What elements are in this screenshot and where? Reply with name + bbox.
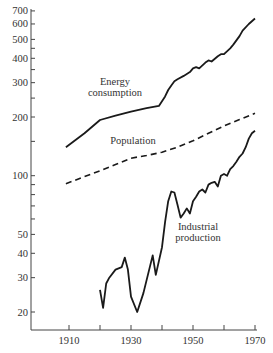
y-tick-label: 400 (12, 53, 28, 64)
series-group (66, 19, 255, 313)
energy-consumption-label: Energy (100, 76, 131, 87)
x-tick-label: 1970 (245, 335, 266, 346)
y-tick-label: 700 (12, 5, 28, 16)
energy-consumption-line (66, 19, 255, 148)
series-labels: EnergyconsumptionPopulationIndustrialpro… (88, 76, 222, 243)
x-tick-label: 1930 (121, 335, 142, 346)
y-tick-label: 200 (12, 112, 28, 123)
x-tick-label: 1910 (59, 335, 80, 346)
y-tick-label: 100 (12, 170, 28, 181)
population-label: Population (110, 135, 156, 146)
y-tick-label: 300 (12, 77, 28, 88)
energy-consumption-label: consumption (88, 87, 143, 98)
industrial-production-label: production (175, 232, 221, 243)
y-tick-label: 500 (12, 34, 28, 45)
industrial-production-label: Industrial (178, 221, 218, 232)
y-tick-label: 40 (18, 248, 29, 259)
y-tick-label: 600 (12, 18, 28, 29)
y-tick-label: 20 (18, 307, 29, 318)
y-tick-label: 30 (18, 272, 29, 283)
line-chart: 2030405010020030040050060070019101930195… (0, 0, 273, 353)
x-tick-label: 1950 (183, 335, 204, 346)
y-tick-label: 50 (18, 229, 29, 240)
